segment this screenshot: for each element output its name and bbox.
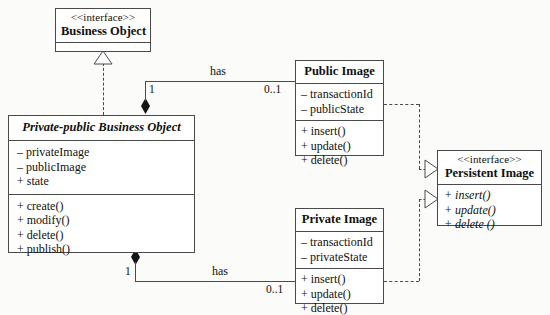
realization-line-public-horizontal xyxy=(384,104,419,105)
composition-line-private-vertical xyxy=(135,262,136,282)
composition-line-public-horizontal xyxy=(145,81,295,82)
class-business-object-stereotype: <<interface>> xyxy=(61,11,145,24)
class-public-image-operations: + insert() + update() + delete() xyxy=(296,120,383,172)
association-multiplicity-public-target: 0..1 xyxy=(264,83,281,95)
realization-line-public-vertical xyxy=(419,104,420,169)
class-persistent-image[interactable]: <<interface>> Persistent Image + insert(… xyxy=(437,150,542,226)
class-public-image-name: Public Image xyxy=(301,64,378,79)
class-public-image-header: Public Image xyxy=(296,61,383,83)
class-private-image-operation: + update() xyxy=(301,287,379,302)
class-persistent-image-operation: + insert() xyxy=(444,188,537,203)
class-persistent-image-operations: + insert() + update() + delete () xyxy=(438,184,541,236)
class-private-image-operation: + delete() xyxy=(301,301,379,315)
class-ppbo-operation: + create() xyxy=(17,199,189,214)
class-ppbo-attributes: – privateImage – publicImage + state xyxy=(9,140,194,194)
association-label-private-has: has xyxy=(212,265,228,278)
class-business-object-header: <<interface>> Business Object xyxy=(56,9,150,42)
class-private-image-header: Private Image xyxy=(296,209,383,231)
class-public-image-attributes: – transactionId – publicState xyxy=(296,83,383,120)
class-public-image-operation: + delete() xyxy=(301,153,379,168)
class-persistent-image-name: Persistent Image xyxy=(443,166,536,181)
class-business-object[interactable]: <<interface>> Business Object xyxy=(55,8,151,52)
class-persistent-image-operation: + update() xyxy=(444,203,537,218)
class-ppbo-operation: + publish() xyxy=(17,242,189,257)
class-public-image-operation: + insert() xyxy=(301,124,379,139)
class-ppbo-attribute: + state xyxy=(17,174,189,189)
class-private-image-attributes: – transactionId – privateState xyxy=(296,231,383,268)
class-business-object-body xyxy=(56,42,150,58)
realization-line-private-vertical xyxy=(419,199,420,281)
class-ppbo-attribute: – privateImage xyxy=(17,145,189,160)
class-ppbo-operation: + modify() xyxy=(17,213,189,228)
class-public-image-attribute: – publicState xyxy=(301,102,379,117)
class-persistent-image-header: <<interface>> Persistent Image xyxy=(438,151,541,184)
class-private-image-attribute: – transactionId xyxy=(301,235,379,250)
realization-line-business-object xyxy=(103,63,104,115)
composition-line-private-horizontal xyxy=(135,281,295,282)
class-public-image-attribute: – transactionId xyxy=(301,87,379,102)
association-multiplicity-public-source: 1 xyxy=(149,83,155,95)
realization-line-private-horizontal xyxy=(384,281,419,282)
class-private-image-operation: + insert() xyxy=(301,272,379,287)
class-persistent-image-stereotype: <<interface>> xyxy=(443,153,536,166)
association-multiplicity-private-target: 0..1 xyxy=(266,283,283,295)
class-ppbo-header: Private-public Business Object xyxy=(9,116,194,140)
class-persistent-image-operation: + delete () xyxy=(444,217,537,232)
composition-line-public-vertical xyxy=(145,81,146,101)
class-ppbo-operation: + delete() xyxy=(17,228,189,243)
class-private-image-operations: + insert() + update() + delete() xyxy=(296,268,383,315)
class-ppbo-attribute: – publicImage xyxy=(17,160,189,175)
class-business-object-name: Business Object xyxy=(61,24,145,39)
class-private-image-name: Private Image xyxy=(301,212,378,227)
association-multiplicity-private-source: 1 xyxy=(125,265,131,277)
association-label-public-has: has xyxy=(210,65,226,78)
class-private-image[interactable]: Private Image – transactionId – privateS… xyxy=(295,208,384,304)
class-private-public-business-object[interactable]: Private-public Business Object – private… xyxy=(8,115,195,253)
uml-diagram-canvas: has 1 0..1 has 1 0..1 <<interface>> Busi… xyxy=(0,0,550,315)
class-private-image-attribute: – privateState xyxy=(301,250,379,265)
class-public-image[interactable]: Public Image – transactionId – publicSta… xyxy=(295,60,384,156)
class-ppbo-name: Private-public Business Object xyxy=(14,120,189,135)
class-public-image-operation: + update() xyxy=(301,139,379,154)
class-ppbo-operations: + create() + modify() + delete() + publi… xyxy=(9,194,194,262)
